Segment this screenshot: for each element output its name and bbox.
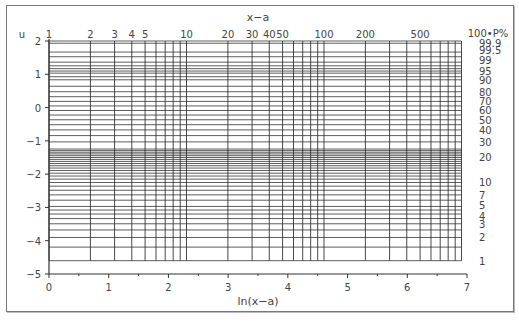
x-axis-title: ln(x−a): [237, 295, 278, 308]
top-tick-label: 4: [129, 29, 135, 40]
y-tick-label: −4: [26, 236, 41, 247]
y-tick-label: −1: [26, 136, 41, 147]
right-tick-label: 30: [479, 137, 492, 148]
y-tick-label: 1: [35, 69, 41, 80]
top-tick-label: 5: [142, 29, 148, 40]
right-tick-label: 90: [479, 75, 492, 86]
right-tick-label: 7: [479, 190, 485, 201]
x-tick-label: 1: [106, 282, 112, 293]
right-tick-label: 3: [479, 219, 485, 230]
top-tick-label: 10: [180, 29, 193, 40]
top-tick-label: 3: [111, 29, 117, 40]
right-tick-label: 5: [479, 200, 485, 211]
x-tick-label: 2: [165, 282, 171, 293]
x-tick-label: 3: [225, 282, 231, 293]
top-tick-label: 20: [222, 29, 235, 40]
top-tick-label: 1: [46, 29, 52, 40]
y-tick-label: −3: [26, 202, 41, 213]
y-tick-label: −2: [26, 169, 41, 180]
right-tick-label: 1: [479, 256, 485, 267]
y-axis-title: u: [19, 29, 25, 40]
y-tick-label: 0: [35, 103, 41, 114]
grid-lines: [49, 41, 461, 261]
top-tick-label: 30: [246, 29, 259, 40]
x-tick-label: 5: [344, 282, 350, 293]
top-tick-label: 100: [314, 29, 333, 40]
x-tick-label: 0: [46, 282, 52, 293]
top-tick-label: 500: [411, 29, 430, 40]
top-tick-label: 200: [356, 29, 375, 40]
right-axis-title: 100•P%: [468, 28, 509, 39]
right-tick-label: 10: [479, 177, 492, 188]
y-tick-label: 2: [35, 36, 41, 47]
x-tick-label: 7: [464, 282, 470, 293]
x-tick-label: 6: [404, 282, 410, 293]
right-tick-label: 20: [479, 152, 492, 163]
weibull-probability-chart: 210−1−2−3−4−5012345671234510203040501002…: [0, 0, 519, 325]
top-tick-label: 2: [87, 29, 93, 40]
top-tick-label: 40: [263, 29, 276, 40]
right-tick-label: 2: [479, 232, 485, 243]
y-tick-label: −5: [26, 269, 41, 280]
right-tick-label: 99: [479, 55, 492, 66]
top-tick-label: 50: [276, 29, 289, 40]
top-axis-title: x−a: [247, 11, 269, 24]
right-tick-label: 40: [479, 125, 492, 136]
x-tick-label: 4: [285, 282, 291, 293]
